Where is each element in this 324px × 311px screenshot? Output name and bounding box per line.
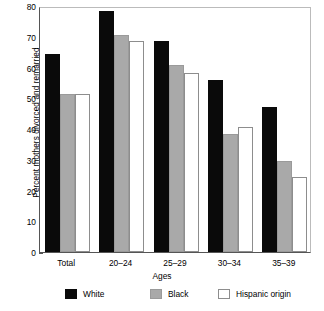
bar-series-container — [40, 8, 310, 252]
y-tick-label: 70 — [12, 34, 36, 42]
bar — [45, 54, 60, 252]
bar — [262, 107, 277, 252]
y-tick-mark — [39, 253, 43, 254]
bar — [184, 73, 199, 252]
chart-legend: WhiteBlackHispanic origin — [0, 289, 324, 309]
plot-area — [39, 7, 311, 253]
white-outlined-swatch — [218, 289, 230, 299]
x-tick-label: 30–34 — [199, 258, 259, 268]
legend-label: Hispanic origin — [236, 289, 291, 299]
bar — [114, 35, 129, 252]
black-filled-swatch — [65, 289, 77, 299]
legend-item: White — [65, 289, 104, 299]
legend-item: Black — [150, 289, 188, 299]
bar — [99, 11, 114, 252]
bar — [154, 41, 169, 252]
y-tick-label: 40 — [12, 126, 36, 134]
bar — [169, 65, 184, 252]
bar — [223, 134, 238, 252]
y-tick-label: 0 — [12, 249, 36, 257]
y-tick-label: 20 — [12, 188, 36, 196]
y-tick-label: 80 — [12, 3, 36, 11]
bar — [277, 161, 292, 252]
bar — [129, 41, 144, 252]
x-tick-label: Total — [36, 258, 96, 268]
x-axis-title: Ages — [0, 271, 324, 281]
legend-item: Hispanic origin — [218, 289, 291, 299]
y-tick-label: 30 — [12, 157, 36, 165]
bar — [75, 94, 90, 252]
x-tick-label: 20–24 — [91, 258, 151, 268]
legend-label: White — [83, 289, 104, 299]
legend-label: Black — [168, 289, 188, 299]
bar — [60, 94, 75, 252]
bar-chart-figure: Percent mothers divorced and remarried 0… — [0, 0, 324, 311]
bar — [208, 80, 223, 252]
bar — [238, 127, 253, 252]
x-tick-label: 35–39 — [254, 258, 314, 268]
x-tick-label: 25–29 — [145, 258, 205, 268]
y-tick-label: 60 — [12, 65, 36, 73]
gray-filled-swatch — [150, 289, 162, 299]
bar — [292, 177, 307, 252]
y-tick-label: 10 — [12, 218, 36, 226]
y-tick-label: 50 — [12, 95, 36, 103]
